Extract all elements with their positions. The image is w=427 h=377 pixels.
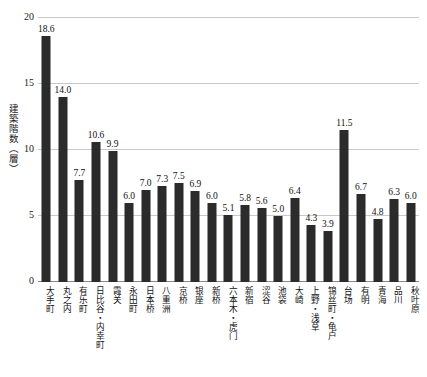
bar[interactable] bbox=[357, 194, 366, 282]
x-tick-label: 新宿 bbox=[238, 286, 252, 304]
bar[interactable] bbox=[91, 142, 100, 282]
bar[interactable] bbox=[390, 199, 399, 282]
y-tick-label: 15 bbox=[24, 78, 34, 88]
x-tick-label: 有明 bbox=[354, 286, 368, 304]
bar-value-label: 6.0 bbox=[123, 191, 135, 201]
bar-value-label: 7.7 bbox=[73, 168, 85, 178]
bar[interactable] bbox=[191, 191, 200, 282]
bar[interactable] bbox=[406, 203, 415, 282]
bar-value-label: 6.0 bbox=[405, 191, 417, 201]
x-tick-label: 新桥 bbox=[205, 286, 219, 304]
bar-value-label: 14.0 bbox=[55, 85, 72, 95]
bar-slot: 5.0 bbox=[270, 18, 287, 282]
bar-slot: 7.5 bbox=[171, 18, 188, 282]
y-tick-label: 5 bbox=[29, 210, 34, 220]
bar-value-label: 4.8 bbox=[372, 207, 384, 217]
bar-value-label: 11.5 bbox=[336, 118, 352, 128]
bar-slot: 7.0 bbox=[137, 18, 154, 282]
bar-slot: 5.8 bbox=[237, 18, 254, 282]
bar-slot: 7.7 bbox=[71, 18, 88, 282]
x-tick-label: 六本木・虎门 bbox=[222, 286, 236, 340]
bar-slot: 14.0 bbox=[55, 18, 72, 282]
x-tick-label: 上野・浅草 bbox=[304, 286, 318, 331]
x-tick-label: 永田町 bbox=[122, 286, 136, 313]
x-tick-label: 品川 bbox=[387, 286, 401, 304]
y-tick-label: 10 bbox=[24, 144, 34, 154]
bar-slot: 3.9 bbox=[320, 18, 337, 282]
y-axis-title: 建築階数（層） bbox=[2, 104, 18, 174]
bar-slot: 6.7 bbox=[353, 18, 370, 282]
bar-slot: 6.0 bbox=[402, 18, 419, 282]
bar-slot: 6.3 bbox=[386, 18, 403, 282]
bar-slot: 5.1 bbox=[220, 18, 237, 282]
bar[interactable] bbox=[224, 215, 233, 282]
bar-value-label: 10.6 bbox=[88, 130, 105, 140]
bar[interactable] bbox=[373, 219, 382, 282]
bar-slot: 18.6 bbox=[38, 18, 55, 282]
bar-value-label: 4.3 bbox=[305, 213, 317, 223]
x-tick-label: 大崎 bbox=[288, 286, 302, 304]
bar[interactable] bbox=[290, 198, 299, 282]
bar-value-label: 5.1 bbox=[223, 203, 235, 213]
bar-value-label: 3.9 bbox=[322, 219, 334, 229]
bar-value-label: 6.4 bbox=[289, 186, 301, 196]
bar[interactable] bbox=[307, 225, 316, 282]
bar-series: 18.614.07.710.69.96.07.07.37.56.96.05.15… bbox=[38, 18, 419, 282]
bar-slot: 10.6 bbox=[88, 18, 105, 282]
x-tick-label: 有乐町 bbox=[72, 286, 86, 313]
bar-slot: 5.6 bbox=[253, 18, 270, 282]
bar[interactable] bbox=[108, 151, 117, 282]
x-tick-label: 秋叶原 bbox=[404, 286, 418, 313]
bar-value-label: 5.8 bbox=[239, 193, 251, 203]
x-tick-label: 涩谷 bbox=[255, 286, 269, 304]
x-tick-label: 京桥 bbox=[172, 286, 186, 304]
bar[interactable] bbox=[141, 190, 150, 282]
bar-slot: 6.4 bbox=[286, 18, 303, 282]
y-tick-label: 0 bbox=[29, 276, 34, 286]
x-tick-label: 大手町 bbox=[39, 286, 53, 313]
x-tick-label: 台场 bbox=[337, 286, 351, 304]
x-tick-label: 霞关 bbox=[106, 286, 120, 304]
bar[interactable] bbox=[207, 203, 216, 282]
bar-value-label: 7.0 bbox=[140, 178, 152, 188]
bar[interactable] bbox=[158, 186, 167, 282]
bar-value-label: 18.6 bbox=[38, 24, 55, 34]
y-tick-label: 20 bbox=[24, 12, 34, 22]
bar-slot: 7.3 bbox=[154, 18, 171, 282]
bar-value-label: 7.5 bbox=[173, 171, 185, 181]
bar-chart: 建築階数（層） 05101520 18.614.07.710.69.96.07.… bbox=[0, 0, 427, 377]
bar[interactable] bbox=[340, 130, 349, 282]
bar-value-label: 6.9 bbox=[189, 179, 201, 189]
bar-slot: 6.0 bbox=[121, 18, 138, 282]
bar[interactable] bbox=[42, 36, 51, 282]
bar[interactable] bbox=[58, 97, 67, 282]
bar-value-label: 5.0 bbox=[272, 204, 284, 214]
x-tick-label: 八重洲 bbox=[155, 286, 169, 313]
x-tick-label: 池袋 bbox=[271, 286, 285, 304]
bar[interactable] bbox=[174, 183, 183, 282]
bar-slot: 11.5 bbox=[336, 18, 353, 282]
bar-value-label: 7.3 bbox=[156, 174, 168, 184]
x-tick-label: 日比谷・内幸町 bbox=[89, 286, 103, 349]
bar[interactable] bbox=[75, 180, 84, 282]
bar[interactable] bbox=[241, 205, 250, 282]
bar-value-label: 9.9 bbox=[107, 139, 119, 149]
bar-slot: 6.0 bbox=[204, 18, 221, 282]
bar-value-label: 5.6 bbox=[256, 196, 268, 206]
bar[interactable] bbox=[257, 208, 266, 282]
bar-value-label: 6.0 bbox=[206, 191, 218, 201]
plot-area: 05101520 18.614.07.710.69.96.07.07.37.56… bbox=[38, 18, 419, 282]
bar-slot: 6.9 bbox=[187, 18, 204, 282]
x-axis-labels: 大手町丸之内有乐町日比谷・内幸町霞关永田町日本桥八重洲京桥银座新桥六本木・虎门新… bbox=[38, 286, 419, 374]
x-tick-label: 日本桥 bbox=[139, 286, 153, 313]
bar-slot: 4.3 bbox=[303, 18, 320, 282]
bar-value-label: 6.7 bbox=[355, 182, 367, 192]
x-tick-label: 丸之内 bbox=[56, 286, 70, 313]
bar[interactable] bbox=[323, 231, 332, 282]
bar-slot: 9.9 bbox=[104, 18, 121, 282]
bar[interactable] bbox=[274, 216, 283, 282]
bar-slot: 4.8 bbox=[369, 18, 386, 282]
x-tick-label: 锦丝町・龟户 bbox=[321, 286, 335, 340]
bar[interactable] bbox=[125, 203, 134, 282]
x-tick-label: 银座 bbox=[188, 286, 202, 304]
